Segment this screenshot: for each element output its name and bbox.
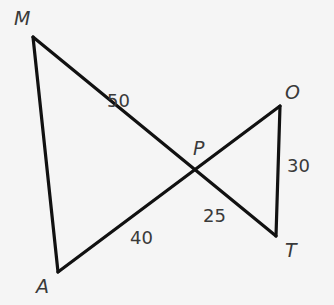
segment-ot: [276, 106, 280, 236]
vertex-label-m: M: [14, 7, 30, 29]
length-label-ap: 40: [130, 227, 153, 248]
length-label-ot: 30: [287, 155, 310, 176]
vertex-label-o: O: [285, 81, 300, 103]
diagram-canvas: M P O T A 50 40 25 30: [0, 0, 334, 305]
vertex-label-t: T: [285, 239, 298, 261]
length-label-mp: 50: [107, 90, 130, 111]
segment-ma: [33, 37, 58, 272]
vertex-label-p: P: [193, 137, 205, 159]
vertex-label-a: A: [34, 275, 49, 297]
length-label-pt: 25: [203, 205, 226, 226]
segment-ao: [58, 106, 280, 272]
triangle-figure: M P O T A 50 40 25 30: [0, 0, 334, 305]
